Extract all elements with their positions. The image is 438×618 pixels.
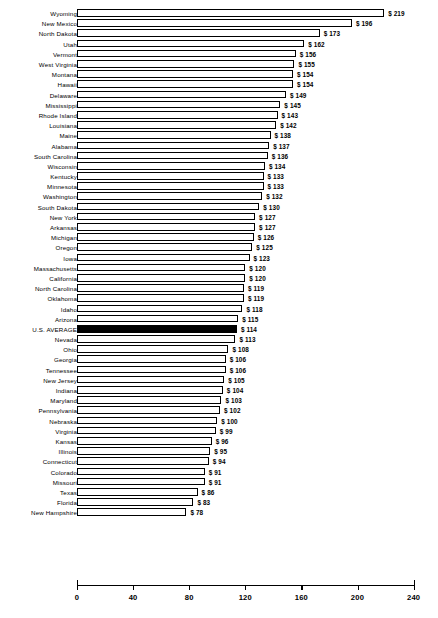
category-label: Kansas	[55, 437, 77, 444]
bar-track: $ 136	[77, 151, 438, 161]
x-axis-tick-label: 160	[295, 593, 308, 602]
bar-row: Hawaii$ 154	[0, 79, 438, 89]
bar-value-label: $ 120	[249, 264, 266, 271]
bar-row: New Hampshire$ 78	[0, 507, 438, 517]
category-label: Oklahoma	[48, 295, 77, 302]
x-axis-tick	[358, 586, 359, 590]
bar-row: Ohio$ 108	[0, 344, 438, 354]
bar	[77, 468, 205, 476]
bar-value-label: $ 130	[263, 203, 280, 210]
bar-track: $ 133	[77, 171, 438, 181]
bar-row: Connecticut$ 94	[0, 456, 438, 466]
bar-track: $ 173	[77, 28, 438, 38]
bar-value-label: $ 119	[248, 285, 264, 292]
bar	[77, 142, 269, 150]
bar-track: $ 127	[77, 222, 438, 232]
bar	[77, 264, 245, 272]
bar	[77, 498, 193, 506]
bar-value-label: $ 91	[209, 478, 222, 485]
bar	[77, 9, 384, 17]
category-label: Texas	[60, 488, 77, 495]
bar-value-label: $ 155	[298, 61, 315, 68]
bar-value-label: $ 83	[197, 499, 210, 506]
bar-value-label: $ 91	[209, 468, 222, 475]
bar-value-label: $ 126	[258, 234, 275, 241]
bar-track: $ 154	[77, 79, 438, 89]
bar-row: Indiana$ 104	[0, 385, 438, 395]
bar-value-label: $ 156	[300, 50, 317, 57]
x-axis-tick-label: 120	[239, 593, 252, 602]
bar-row: Texas$ 86	[0, 487, 438, 497]
bar-row: West Virginia$ 155	[0, 59, 438, 69]
bar-track: $ 104	[77, 385, 438, 395]
bar-value-label: $ 133	[268, 173, 285, 180]
bar-value-label: $ 119	[248, 295, 264, 302]
category-label: North Carolina	[35, 285, 77, 292]
bar-value-label: $ 115	[242, 315, 258, 322]
bar-track: $ 126	[77, 232, 438, 242]
x-axis-tick	[189, 586, 190, 590]
category-label: Ohio	[63, 346, 77, 353]
bar	[77, 315, 238, 323]
bar	[77, 335, 235, 343]
bar-track: $ 105	[77, 375, 438, 385]
bar-track: $ 114	[77, 324, 438, 334]
bar-value-label: $ 86	[202, 488, 215, 495]
category-label: South Carolina	[34, 152, 77, 159]
category-label: Missouri	[53, 478, 77, 485]
bar-track: $ 115	[77, 314, 438, 324]
category-label: Maryland	[50, 397, 77, 404]
category-label: Hawaii	[58, 81, 77, 88]
bar-value-label: $ 113	[239, 336, 255, 343]
bar	[77, 233, 254, 241]
category-label: Maine	[59, 132, 77, 139]
bar-value-label: $ 114	[241, 325, 257, 332]
bar	[77, 29, 320, 37]
bar-value-label: $ 118	[246, 305, 262, 312]
bar-row: Wisconsin$ 134	[0, 161, 438, 171]
bar-track: $ 123	[77, 253, 438, 263]
bar-row: Arkansas$ 127	[0, 222, 438, 232]
bar-row: New Jersey$ 105	[0, 375, 438, 385]
bar-track: $ 120	[77, 263, 438, 273]
x-axis-tick	[133, 586, 134, 590]
x-axis-tick-label: 240	[407, 593, 420, 602]
bar-row: North Carolina$ 119	[0, 283, 438, 293]
bar-track: $ 103	[77, 395, 438, 405]
bar	[77, 274, 245, 282]
bar-track: $ 156	[77, 49, 438, 59]
bar-value-label: $ 145	[284, 101, 301, 108]
bar-row: Rhode Island$ 143	[0, 110, 438, 120]
bar-rows-container: Wyoming$ 219New Mexico$ 196North Dakota$…	[0, 8, 438, 517]
category-label: West Virginia	[39, 61, 77, 68]
bar-track: $ 94	[77, 456, 438, 466]
bar	[77, 345, 228, 353]
bar-track: $ 96	[77, 436, 438, 446]
category-label: Oregon	[55, 244, 77, 251]
bar-row: Pennsylvania$ 102	[0, 405, 438, 415]
bar	[77, 284, 244, 292]
bar-row: Illinois$ 95	[0, 446, 438, 456]
bar	[77, 91, 286, 99]
bar-row: Tennessee$ 106	[0, 365, 438, 375]
category-label: Idaho	[61, 305, 77, 312]
category-label: Alabama	[52, 142, 77, 149]
bar	[77, 437, 212, 445]
category-label: Massachusetts	[34, 264, 77, 271]
bar-track: $ 132	[77, 191, 438, 201]
category-label: California	[49, 274, 77, 281]
category-label: Wisconsin	[47, 162, 77, 169]
bar	[77, 396, 221, 404]
bar	[77, 355, 226, 363]
bar-value-label: $ 142	[280, 122, 297, 129]
bar-row: Idaho$ 118	[0, 303, 438, 313]
category-label: Mississippi	[45, 101, 77, 108]
bar	[77, 60, 294, 68]
x-axis-left-cap	[77, 580, 78, 585]
bar-track: $ 91	[77, 466, 438, 476]
bar-row: Arizona$ 115	[0, 314, 438, 324]
category-label: Nebraska	[49, 417, 77, 424]
bar-track: $ 154	[77, 69, 438, 79]
category-label: Connecticut	[43, 458, 77, 465]
bar-value-label: $ 96	[216, 437, 229, 444]
